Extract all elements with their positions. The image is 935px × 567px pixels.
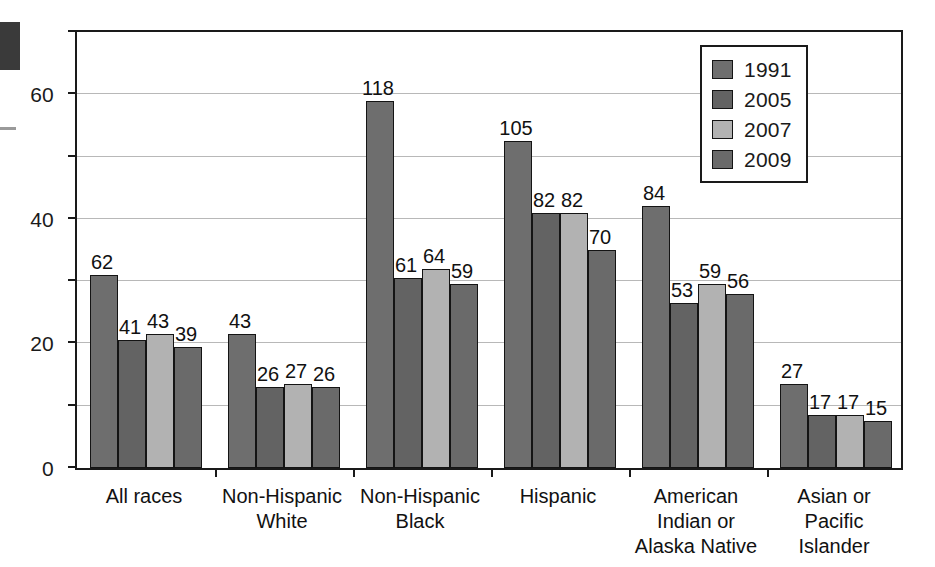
bar xyxy=(146,334,174,468)
x-axis-tick xyxy=(353,468,355,477)
bar-value-label: 105 xyxy=(499,118,532,138)
legend-swatch-icon xyxy=(712,60,733,79)
bar xyxy=(560,213,588,468)
bar xyxy=(808,415,836,468)
y-axis-tick: 60 xyxy=(68,279,77,281)
bar xyxy=(366,101,394,468)
y-axis-label: 60 xyxy=(30,84,54,105)
bar-value-label: 64 xyxy=(423,246,445,266)
legend-item: 2009 xyxy=(712,144,792,174)
bar xyxy=(532,213,560,468)
category-label: American Indian or Alaska Native xyxy=(635,484,757,559)
bar-value-label: 27 xyxy=(781,361,803,381)
legend-item-label: 2009 xyxy=(744,149,792,170)
legend-item: 2005 xyxy=(712,84,792,114)
bar-value-label: 17 xyxy=(837,392,859,412)
y-axis-label: 40 xyxy=(30,208,54,229)
bar xyxy=(780,384,808,468)
bar-value-label: 59 xyxy=(451,261,473,281)
bar xyxy=(118,340,146,468)
bar xyxy=(670,303,698,468)
x-axis-tick xyxy=(215,468,217,477)
y-axis-tick: 20 xyxy=(68,404,77,406)
bar xyxy=(422,269,450,468)
bar-value-label: 84 xyxy=(643,183,665,203)
bar xyxy=(864,421,892,468)
category-label: Non-Hispanic Black xyxy=(360,484,480,534)
bar xyxy=(312,387,340,468)
y-axis-tick: 40 xyxy=(68,341,77,343)
legend-item-label: 2005 xyxy=(744,89,792,110)
legend-item-label: 2007 xyxy=(744,119,792,140)
bar xyxy=(504,141,532,468)
category-label: Hispanic xyxy=(520,484,597,509)
legend-item: 2007 xyxy=(712,114,792,144)
bar xyxy=(174,347,202,468)
bar xyxy=(698,284,726,468)
bar-value-label: 53 xyxy=(671,280,693,300)
gridline xyxy=(77,218,901,219)
bar-value-label: 39 xyxy=(175,324,197,344)
category-label: All races xyxy=(106,484,183,509)
bar-value-label: 118 xyxy=(362,78,394,98)
x-axis-tick xyxy=(629,468,631,477)
y-axis-label: 20 xyxy=(30,333,54,354)
bar-value-label: 70 xyxy=(589,227,611,247)
bar-value-label: 56 xyxy=(727,271,749,291)
grouped-bar-chart: 020406080100120140 624143394326272611861… xyxy=(0,0,935,567)
bar-value-label: 62 xyxy=(91,252,113,272)
bar-value-label: 41 xyxy=(119,317,141,337)
y-axis-tick: 120 xyxy=(68,92,77,94)
bar-value-label: 17 xyxy=(809,392,831,412)
bar xyxy=(588,250,616,468)
bar-value-label: 26 xyxy=(313,364,335,384)
bar-value-label: 15 xyxy=(865,398,887,418)
category-label: Asian or Pacific Islander xyxy=(797,484,870,559)
category-label: Non-Hispanic White xyxy=(222,484,342,534)
x-axis-tick xyxy=(491,468,493,477)
gridline xyxy=(77,280,901,281)
y-axis-tick: 0 xyxy=(68,466,77,468)
bar-value-label: 43 xyxy=(229,311,251,331)
y-axis-tick: 100 xyxy=(68,155,77,157)
y-axis-tick: 140 xyxy=(68,30,77,32)
bar xyxy=(284,384,312,468)
bar xyxy=(836,415,864,468)
legend-swatch-icon xyxy=(712,90,733,109)
bar-value-label: 27 xyxy=(285,361,307,381)
y-axis-label: 0 xyxy=(42,458,54,479)
bar-value-label: 43 xyxy=(147,311,169,331)
legend-item: 1991 xyxy=(712,54,792,84)
bar xyxy=(450,284,478,468)
bar-value-label: 59 xyxy=(699,261,721,281)
bar xyxy=(256,387,284,468)
x-axis-tick xyxy=(767,468,769,477)
gridline xyxy=(77,342,901,343)
legend-swatch-icon xyxy=(712,150,733,169)
bar xyxy=(90,275,118,468)
bar-value-label: 82 xyxy=(561,190,583,210)
bar-value-label: 26 xyxy=(257,364,279,384)
bar-value-label: 61 xyxy=(395,255,417,275)
bar xyxy=(228,334,256,468)
legend-item-label: 1991 xyxy=(744,59,792,80)
legend: 1991200520072009 xyxy=(700,45,808,183)
bar xyxy=(726,294,754,468)
bar xyxy=(642,206,670,468)
y-axis-tick: 80 xyxy=(68,217,77,219)
legend-swatch-icon xyxy=(712,120,733,139)
bar xyxy=(394,278,422,468)
bar-value-label: 82 xyxy=(533,190,555,210)
